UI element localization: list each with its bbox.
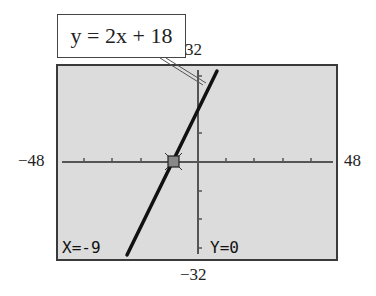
graph-plot — [0, 0, 376, 296]
trace-cursor-icon — [165, 153, 182, 170]
x-readout: X=-9 — [62, 238, 101, 257]
y-readout: Y=0 — [210, 238, 239, 257]
